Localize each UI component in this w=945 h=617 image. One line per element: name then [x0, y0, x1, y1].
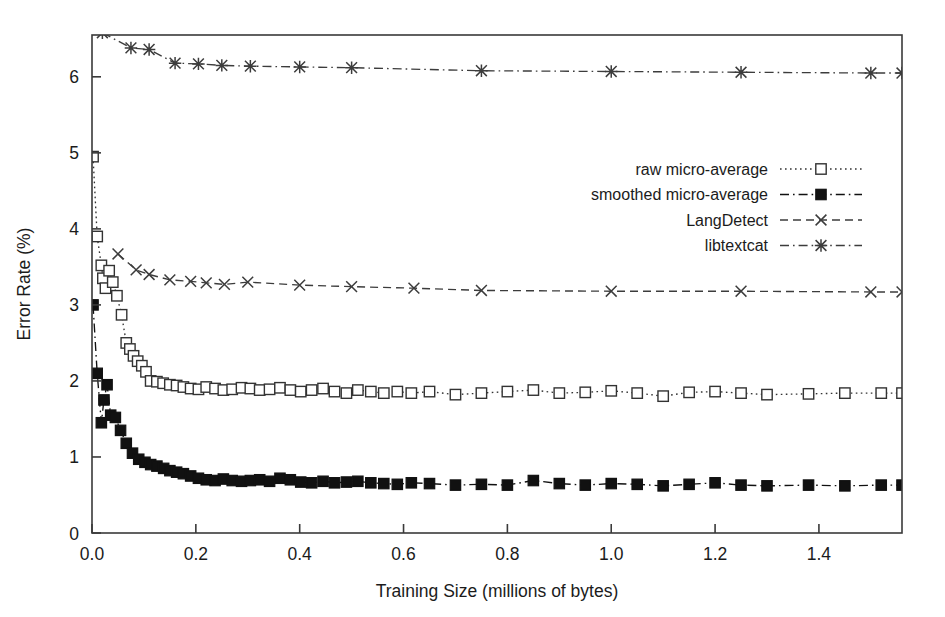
data-point-marker: [318, 476, 328, 486]
data-point-marker: [341, 477, 351, 487]
data-point-marker: [113, 249, 124, 260]
data-point-marker: [116, 310, 126, 320]
y-tick-label: 6: [69, 67, 79, 87]
data-point-marker: [306, 385, 316, 395]
data-point-marker: [143, 43, 155, 55]
data-point-marker: [762, 389, 772, 399]
chart-figure: 0.00.20.40.60.81.01.21.40123456 Error Ra…: [0, 0, 945, 617]
data-point-marker: [392, 479, 402, 489]
data-point-marker: [803, 389, 813, 399]
x-tick-label: 0.2: [184, 544, 208, 564]
data-point-marker: [329, 478, 339, 488]
y-tick-label: 2: [69, 371, 79, 391]
data-point-marker: [345, 61, 357, 73]
data-point-marker: [736, 480, 746, 490]
data-point-marker: [115, 425, 125, 435]
data-point-marker: [285, 475, 295, 485]
x-tick-label: 0.4: [288, 544, 313, 564]
data-point-marker: [840, 388, 850, 398]
data-point-marker: [684, 387, 694, 397]
data-point-marker: [92, 368, 102, 378]
data-point-marker: [353, 385, 363, 395]
data-point-marker: [131, 265, 142, 276]
data-point-marker: [502, 480, 512, 490]
y-tick-label: 3: [69, 295, 79, 315]
data-point-marker: [353, 476, 363, 486]
data-point-marker: [658, 481, 668, 491]
error-rate-vs-training-size-chart: 0.00.20.40.60.81.01.21.40123456 Error Ra…: [0, 0, 945, 617]
y-tick-label: 5: [69, 143, 79, 163]
data-point-marker: [96, 27, 108, 39]
data-point-marker: [255, 385, 265, 395]
data-point-marker: [169, 57, 181, 69]
data-point-marker: [92, 231, 102, 241]
data-point-marker: [275, 473, 285, 483]
data-point-marker: [329, 386, 339, 396]
axes-layer: [92, 35, 902, 533]
data-point-marker: [264, 476, 274, 486]
series-layer: [88, 27, 908, 492]
data-point-marker: [285, 385, 295, 395]
data-point-marker: [876, 480, 886, 490]
data-point-marker: [736, 388, 746, 398]
data-point-marker: [816, 164, 826, 174]
data-point-marker: [528, 475, 538, 485]
data-point-marker: [296, 477, 306, 487]
data-point-marker: [606, 386, 616, 396]
data-point-marker: [450, 480, 460, 490]
data-point-marker: [476, 479, 486, 489]
legend-label: smoothed micro-average: [591, 186, 768, 203]
data-point-marker: [476, 388, 486, 398]
data-point-marker: [528, 385, 538, 395]
series-line: [93, 305, 902, 486]
y-tick-label: 4: [69, 219, 79, 239]
legend-item-4: libtextcat: [705, 237, 862, 254]
data-point-marker: [275, 383, 285, 393]
data-point-marker: [366, 386, 376, 396]
x-tick-label: 1.2: [703, 544, 727, 564]
data-point-marker: [424, 386, 434, 396]
data-point-marker: [710, 386, 720, 396]
data-point-marker: [244, 60, 256, 72]
legend-item-2: smoothed micro-average: [591, 186, 862, 203]
data-point-marker: [424, 478, 434, 488]
data-point-marker: [735, 66, 747, 78]
legend-item-1: raw micro-average: [636, 161, 862, 178]
data-point-marker: [762, 481, 772, 491]
data-point-marker: [110, 412, 120, 422]
data-point-marker: [108, 277, 118, 287]
data-point-marker: [840, 481, 850, 491]
data-point-marker: [379, 388, 389, 398]
data-point-marker: [104, 265, 114, 275]
data-point-marker: [502, 386, 512, 396]
data-point-marker: [392, 386, 402, 396]
data-point-marker: [306, 478, 316, 488]
data-point-marker: [816, 189, 826, 199]
data-point-marker: [102, 380, 112, 390]
plot-frame: [92, 35, 902, 533]
x-tick-label: 0.6: [391, 544, 415, 564]
data-point-marker: [121, 438, 131, 448]
series-2: [88, 300, 907, 491]
data-point-marker: [876, 388, 886, 398]
data-point-marker: [475, 65, 487, 77]
data-point-marker: [606, 478, 616, 488]
data-point-marker: [605, 65, 617, 77]
legend-item-3: LangDetect: [686, 212, 862, 229]
data-point-marker: [684, 479, 694, 489]
data-point-marker: [580, 480, 590, 490]
data-point-marker: [554, 388, 564, 398]
x-tick-label: 1.4: [807, 544, 832, 564]
data-point-marker: [815, 239, 827, 251]
data-point-marker: [296, 386, 306, 396]
data-point-marker: [554, 478, 564, 488]
x-tick-label: 1.0: [599, 544, 624, 564]
data-point-marker: [632, 388, 642, 398]
chart-legend: raw micro-averagesmoothed micro-averageL…: [591, 161, 862, 255]
series-line: [118, 254, 902, 292]
data-point-marker: [450, 389, 460, 399]
data-point-marker: [406, 478, 416, 488]
y-tick-label: 0: [69, 524, 79, 544]
data-point-marker: [192, 58, 204, 70]
data-point-marker: [99, 395, 109, 405]
